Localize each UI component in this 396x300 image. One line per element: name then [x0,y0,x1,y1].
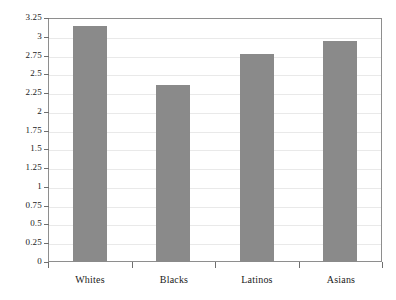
bar-chart: 3.2532.752.52.2521.751.51.2510.750.50.25… [0,0,396,300]
y-axis-tick [44,224,49,225]
y-axis-tick-label: 2.5 [0,69,42,78]
y-axis-tick-label: 2 [0,107,42,116]
y-axis-tick [44,168,49,169]
y-axis-tick [44,187,49,188]
y-axis-tick-label: 3 [0,32,42,41]
y-axis-tick [44,149,49,150]
bar-latinos [240,54,274,262]
y-axis-tick-label: 2.75 [0,51,42,60]
x-axis-tick [299,262,300,268]
y-axis-tick-label: 3.25 [0,13,42,22]
y-axis-tick [44,131,49,132]
y-axis-tick-label: 1 [0,182,42,191]
y-axis-tick-label: 2.25 [0,88,42,97]
x-axis-label-blacks: Blacks [132,274,216,285]
y-axis-tick [44,74,49,75]
y-axis-tick [44,206,49,207]
x-axis-label-asians: Asians [299,274,383,285]
y-axis-tick-label: 1.5 [0,144,42,153]
x-axis-tick [215,262,216,268]
x-axis-label-whites: Whites [48,274,132,285]
y-axis-tick-label: 0 [0,257,42,266]
y-axis-tick-label: 1.25 [0,163,42,172]
y-axis-tick [44,93,49,94]
y-axis-tick [44,37,49,38]
y-axis-tick [44,243,49,244]
x-axis-tick [132,262,133,268]
x-axis-tick [48,262,49,268]
y-axis-tick-label: 0.5 [0,219,42,228]
bar-whites [73,26,107,262]
y-axis-tick [44,112,49,113]
x-axis-tick [382,262,383,268]
y-axis-tick-label: 1.75 [0,126,42,135]
x-axis-label-latinos: Latinos [215,274,299,285]
bar-asians [323,41,357,262]
y-axis-tick-label: 0.75 [0,201,42,210]
y-axis-tick [44,56,49,57]
bar-blacks [156,85,190,262]
y-axis-tick-label: 0.25 [0,238,42,247]
y-axis-tick [44,18,49,19]
